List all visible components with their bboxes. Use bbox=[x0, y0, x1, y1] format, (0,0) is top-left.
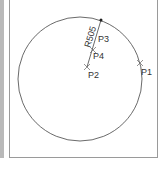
point-label-p4: P4 bbox=[93, 51, 104, 61]
point-label-p1: P1 bbox=[141, 67, 152, 77]
dimension-endpoint-dot bbox=[100, 19, 103, 22]
p1-marker-icon bbox=[137, 60, 143, 66]
point-label-p2: P2 bbox=[88, 70, 99, 80]
circle-diagram: R505 P3 P4 P2 P1 bbox=[0, 0, 168, 171]
point-label-p3: P3 bbox=[98, 34, 109, 44]
main-circle[interactable] bbox=[18, 17, 142, 141]
